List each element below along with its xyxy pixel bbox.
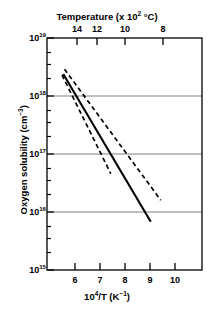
data-series-group: [62, 69, 161, 222]
gridlines: [47, 96, 202, 212]
x-axis-major-ticks: [75, 263, 175, 270]
plot-area: [0, 0, 214, 318]
chart-figure: Temperature (x 102 °C) 14 12 10 8 1019 1…: [0, 0, 214, 318]
top-axis-major-ticks: [77, 38, 163, 45]
series-upper-bound-dashed: [65, 69, 161, 200]
series-lower-bound-dashed: [62, 75, 111, 174]
y-axis-ticks: [47, 38, 54, 270]
